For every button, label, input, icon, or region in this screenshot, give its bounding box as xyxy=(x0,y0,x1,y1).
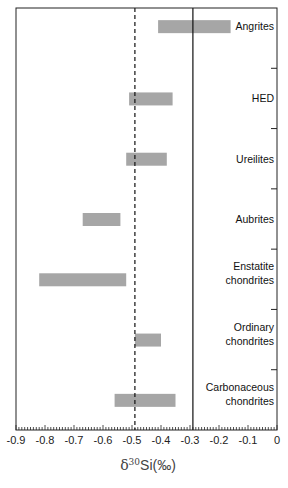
category-label: Angrites xyxy=(235,20,274,32)
category-label: HED xyxy=(252,92,275,104)
category-label: Aubrites xyxy=(235,213,274,225)
x-tick-label: 0 xyxy=(274,434,280,446)
range-bar xyxy=(83,213,121,226)
range-bar xyxy=(115,394,176,407)
range-bar xyxy=(39,273,126,286)
reference-lines xyxy=(135,8,193,430)
x-tick-label: -0.7 xyxy=(65,434,84,446)
x-tick-label: -0.2 xyxy=(210,434,229,446)
range-bar xyxy=(135,334,161,347)
x-axis-label: δ30Si(‰) xyxy=(120,457,176,473)
x-tick-label: -0.4 xyxy=(152,434,171,446)
category-label: Carbonaceous xyxy=(206,381,274,393)
chart: AngritesHEDUreilitesAubritesEnstatitecho… xyxy=(0,0,288,488)
category-label: chondrites xyxy=(226,274,274,286)
x-tick-label: -0.8 xyxy=(36,434,55,446)
x-tick-label: -0.1 xyxy=(239,434,258,446)
range-bar xyxy=(129,92,173,105)
range-bar xyxy=(158,20,231,33)
category-label: chondrites xyxy=(226,395,274,407)
x-tick-label: -0.9 xyxy=(7,434,26,446)
category-label: Ordinary xyxy=(234,321,275,333)
x-axis: -0.9-0.8-0.7-0.6-0.5-0.4-0.3-0.2-0.10 xyxy=(7,425,281,446)
category-label: Enstatite xyxy=(233,260,274,272)
x-tick-label: -0.5 xyxy=(123,434,142,446)
category-label: Ureilites xyxy=(236,153,274,165)
x-tick-label: -0.3 xyxy=(181,434,200,446)
category-labels: AngritesHEDUreilitesAubritesEnstatitecho… xyxy=(206,20,275,407)
category-label: chondrites xyxy=(226,335,274,347)
range-bar xyxy=(126,153,167,166)
x-tick-label: -0.6 xyxy=(94,434,113,446)
